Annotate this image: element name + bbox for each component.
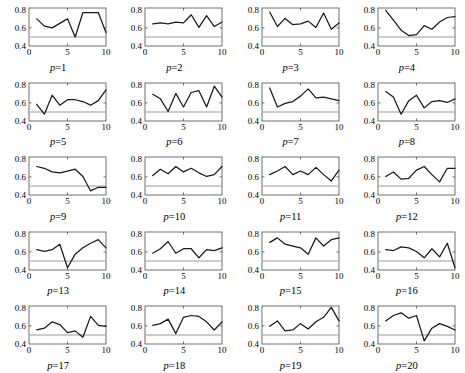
- axes-frame: [145, 83, 222, 121]
- x-tick-label: 0: [376, 197, 381, 207]
- panel-caption: p=11: [233, 211, 349, 222]
- y-tick-label: 0.6: [15, 247, 27, 257]
- y-tick-label: 0.4: [247, 41, 259, 51]
- panel-caption: p=13: [0, 285, 116, 296]
- panel-caption: p=3: [233, 62, 349, 73]
- y-tick-label: 0.4: [247, 190, 259, 200]
- x-tick-label: 10: [450, 346, 459, 356]
- panel-caption-value: 13: [58, 285, 69, 296]
- x-tick-label: 10: [450, 122, 459, 132]
- axes-frame: [29, 8, 106, 46]
- panel-caption: p=1: [0, 62, 116, 73]
- panel-caption-value: 8: [410, 136, 415, 147]
- panel-caption-value: 7: [294, 136, 299, 147]
- y-tick-label: 0.4: [15, 116, 27, 126]
- x-tick-label: 5: [298, 271, 303, 281]
- data-series-line: [37, 317, 106, 338]
- x-tick-label: 10: [450, 47, 459, 57]
- panel-caption-value: 6: [177, 136, 182, 147]
- y-tick-label: 0.6: [131, 247, 143, 257]
- y-tick-label: 0.4: [364, 190, 376, 200]
- subplot-panel: 0.40.60.80510p=11: [233, 149, 349, 224]
- x-tick-label: 10: [334, 271, 343, 281]
- data-series-line: [37, 89, 106, 113]
- axes-frame: [378, 8, 455, 46]
- x-tick-label: 10: [450, 271, 459, 281]
- y-tick-label: 0.8: [364, 229, 376, 239]
- x-tick-label: 5: [298, 122, 303, 132]
- panel-caption-value: 11: [291, 211, 301, 222]
- panel-caption: p=16: [349, 285, 465, 296]
- y-tick-label: 0.8: [247, 5, 259, 15]
- x-tick-label: 5: [181, 197, 186, 207]
- y-tick-label: 0.6: [364, 98, 376, 108]
- axes-frame: [262, 232, 339, 270]
- data-series-line: [269, 167, 338, 181]
- x-tick-label: 0: [376, 346, 381, 356]
- panel-caption: p=2: [116, 62, 232, 73]
- x-tick-label: 0: [143, 197, 148, 207]
- subplot-panel: 0.40.60.80510p=13: [0, 224, 116, 299]
- x-tick-label: 10: [102, 197, 111, 207]
- panel-caption: p=6: [116, 136, 232, 147]
- y-tick-label: 0.4: [364, 265, 376, 275]
- subplot-panel: 0.40.60.80510p=9: [0, 149, 116, 224]
- data-series-line: [269, 238, 338, 254]
- x-tick-label: 10: [334, 197, 343, 207]
- y-tick-label: 0.4: [131, 116, 143, 126]
- y-tick-label: 0.8: [131, 154, 143, 164]
- axes-frame: [29, 306, 106, 344]
- x-tick-label: 5: [298, 346, 303, 356]
- y-tick-label: 0.6: [247, 247, 259, 257]
- data-series-line: [269, 308, 338, 332]
- figure-panel-grid: 0.40.60.80510p=10.40.60.80510p=20.40.60.…: [0, 0, 465, 373]
- subplot-panel: 0.40.60.80510p=7: [233, 75, 349, 150]
- x-tick-label: 5: [414, 122, 419, 132]
- subplot-panel: 0.40.60.80510p=16: [349, 224, 465, 299]
- x-tick-label: 0: [27, 197, 32, 207]
- x-tick-label: 0: [376, 47, 381, 57]
- panel-caption-value: 1: [61, 62, 66, 73]
- panel-caption: p=9: [0, 211, 116, 222]
- y-tick-label: 0.6: [364, 321, 376, 331]
- x-tick-label: 0: [143, 122, 148, 132]
- x-tick-label: 5: [65, 271, 70, 281]
- subplot-panel: 0.40.60.80510p=20: [349, 298, 465, 373]
- axes-frame: [145, 8, 222, 46]
- x-tick-label: 0: [376, 122, 381, 132]
- x-tick-label: 0: [376, 271, 381, 281]
- data-series-line: [37, 167, 106, 191]
- panel-caption: p=4: [349, 62, 465, 73]
- panel-caption: p=20: [349, 360, 465, 371]
- data-series-line: [153, 241, 222, 257]
- x-tick-label: 10: [334, 346, 343, 356]
- panel-caption-value: 3: [294, 62, 299, 73]
- axes-frame: [262, 157, 339, 195]
- x-tick-label: 5: [414, 197, 419, 207]
- y-tick-label: 0.6: [15, 321, 27, 331]
- data-series-line: [269, 12, 338, 29]
- subplot-panel: 0.40.60.80510p=15: [233, 224, 349, 299]
- y-tick-label: 0.8: [247, 80, 259, 90]
- x-tick-label: 10: [102, 122, 111, 132]
- x-tick-label: 10: [334, 122, 343, 132]
- data-series-line: [153, 167, 222, 177]
- y-tick-label: 0.8: [131, 80, 143, 90]
- y-tick-label: 0.4: [15, 340, 27, 350]
- data-series-line: [37, 239, 106, 267]
- panel-caption-value: 2: [177, 62, 182, 73]
- x-tick-label: 10: [218, 271, 227, 281]
- x-tick-label: 0: [27, 47, 32, 57]
- y-tick-label: 0.6: [364, 172, 376, 182]
- data-series-line: [153, 86, 222, 111]
- x-tick-label: 5: [414, 47, 419, 57]
- y-tick-label: 0.4: [131, 41, 143, 51]
- x-tick-label: 5: [65, 47, 70, 57]
- x-tick-label: 0: [143, 346, 148, 356]
- y-tick-label: 0.8: [15, 80, 27, 90]
- x-tick-label: 10: [218, 197, 227, 207]
- y-tick-label: 0.4: [131, 190, 143, 200]
- panel-caption: p=15: [233, 285, 349, 296]
- x-tick-label: 10: [102, 47, 111, 57]
- x-tick-label: 10: [102, 271, 111, 281]
